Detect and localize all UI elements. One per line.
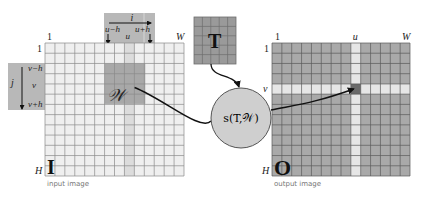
output-highlight-column <box>351 43 361 176</box>
output-row-h-label: H <box>261 165 270 176</box>
template-to-similarity-arrow <box>211 64 239 87</box>
column-range-bar: i u−h u u+h <box>104 12 155 44</box>
output-row-v-label: v <box>263 83 268 94</box>
output-col-1-label: 1 <box>275 31 280 42</box>
row-range-bar: j v−h v v+h <box>8 63 45 110</box>
output-image-grid <box>272 43 410 176</box>
output-row-1-label: 1 <box>264 43 269 54</box>
input-image-symbol: I <box>47 156 55 178</box>
output-image-caption: output image <box>274 180 321 188</box>
u-minus-h-label: u−h <box>105 24 121 34</box>
input-col-1-label: 1 <box>47 31 52 42</box>
input-row-h-label: H <box>34 165 43 176</box>
u-plus-h-label: u+h <box>135 24 151 34</box>
input-image-grid <box>45 43 184 176</box>
input-column-strip <box>124 43 134 176</box>
input-row-1-label: 1 <box>37 43 42 54</box>
template-symbol: T <box>208 30 222 52</box>
v-label: v <box>32 80 36 90</box>
output-col-u-label: u <box>353 31 358 42</box>
u-label: u <box>126 31 131 41</box>
diagram-canvas: i u−h u u+h j v−h v v+h 1 W 1 H I 𝒲 inpu… <box>0 0 425 197</box>
input-col-w-label: W <box>176 31 186 42</box>
similarity-label: s(T,𝒲) <box>223 112 258 125</box>
input-image-caption: input image <box>47 180 89 188</box>
v-plus-h-label: v+h <box>28 99 43 109</box>
output-image-symbol: O <box>274 155 291 180</box>
similarity-node: s(T,𝒲) <box>211 88 271 148</box>
v-minus-h-label: v−h <box>28 63 43 73</box>
i-axis-label: i <box>131 12 134 23</box>
template-matching-diagram: i u−h u u+h j v−h v v+h 1 W 1 H I 𝒲 inpu… <box>0 0 425 197</box>
output-col-w-label: W <box>402 31 412 42</box>
